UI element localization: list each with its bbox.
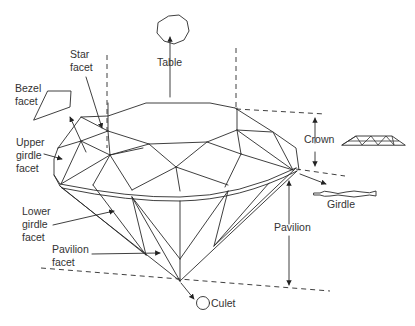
diamond-body xyxy=(54,103,299,281)
label-lower-girdle-2: girdle xyxy=(22,218,48,230)
label-star-2: facet xyxy=(70,61,93,73)
label-upper-girdle-2: girdle xyxy=(16,149,42,161)
label-table: Table xyxy=(157,56,182,68)
girdle-profile-icon xyxy=(314,191,376,197)
crown-profile-icon xyxy=(342,136,405,145)
label-crown: Crown xyxy=(304,133,335,145)
bezel-facet-icon xyxy=(34,91,71,120)
label-culet: Culet xyxy=(211,297,236,309)
culet-icon xyxy=(197,297,210,310)
label-upper-girdle-3: facet xyxy=(16,162,39,174)
label-lower-girdle-1: Lower xyxy=(22,205,51,217)
label-upper-girdle-1: Upper xyxy=(16,136,45,148)
label-star-1: Star xyxy=(70,48,90,60)
label-lower-girdle-3: facet xyxy=(22,231,45,243)
label-girdle: Girdle xyxy=(327,198,355,210)
label-pavilion-facet-2: facet xyxy=(52,256,75,268)
label-pavilion-facet-1: Pavilion xyxy=(52,243,89,255)
label-bezel-2: facet xyxy=(15,95,38,107)
label-pavilion: Pavilion xyxy=(274,221,311,233)
diamond-anatomy-diagram: Table Bezel facet Star facet Upper girdl… xyxy=(0,0,415,326)
label-bezel-1: Bezel xyxy=(15,82,41,94)
